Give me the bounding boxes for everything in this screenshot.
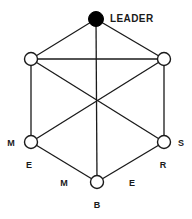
label-bottom-e: E	[129, 178, 135, 188]
label-lower-left-e: E	[26, 160, 32, 170]
edge-lower-left-to-bottom	[31, 142, 97, 182]
diagram-canvas: LEADER M E M B E R S	[0, 0, 192, 219]
node-lower-right[interactable]	[158, 136, 171, 149]
label-lower-left-m: M	[7, 138, 15, 148]
leader-label: LEADER	[110, 13, 154, 24]
node-upper-right[interactable]	[158, 53, 171, 66]
label-lower-right-s: S	[178, 138, 184, 148]
edge-leader-to-upper-right	[96, 19, 164, 59]
label-bottom-m: M	[60, 178, 68, 188]
node-lower-left[interactable]	[25, 136, 38, 149]
edge-group	[31, 19, 164, 182]
label-bottom-b: B	[94, 200, 101, 210]
node-upper-left[interactable]	[25, 53, 38, 66]
node-bottom[interactable]	[91, 176, 104, 189]
node-leader-filled-circle-icon[interactable]	[89, 12, 104, 27]
label-lower-right-r: R	[160, 160, 167, 170]
edge-leader-to-upper-left	[31, 19, 96, 59]
edge-lower-right-to-bottom	[97, 142, 164, 182]
network-diagram: LEADER M E M B E R S	[0, 0, 192, 219]
